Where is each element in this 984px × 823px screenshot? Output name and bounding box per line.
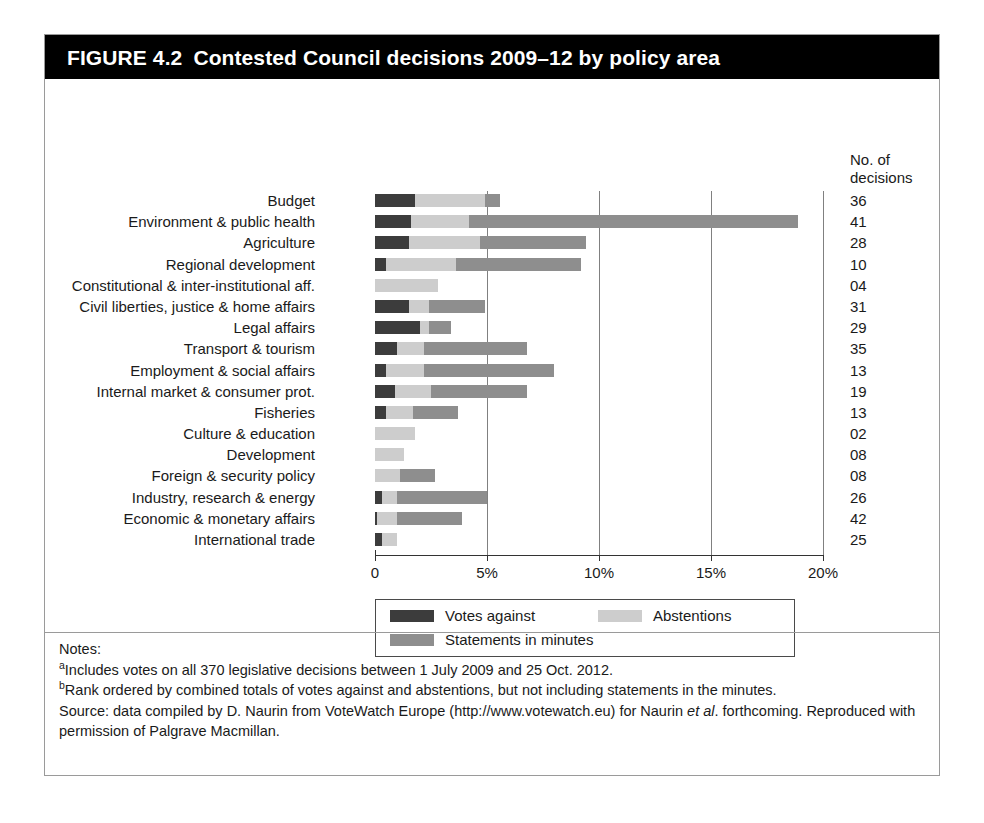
x-axis-tick-label: 20% xyxy=(808,564,838,581)
category-label: Constitutional & inter-institutional aff… xyxy=(0,278,315,294)
bar-segment-against xyxy=(375,342,397,355)
bar-segment-abstent xyxy=(409,300,429,313)
chart-row: International trade25 xyxy=(45,530,939,551)
stacked-bar xyxy=(375,469,823,482)
category-label: Economic & monetary affairs xyxy=(0,511,315,527)
figure-title-text: Contested Council decisions 2009–12 by p… xyxy=(193,46,720,69)
stacked-bar xyxy=(375,512,823,525)
bar-segment-against xyxy=(375,406,386,419)
bar-segment-statement xyxy=(469,215,798,228)
figure-container: FIGURE 4.2Contested Council decisions 20… xyxy=(44,34,940,776)
x-axis-tick-label: 0 xyxy=(371,564,379,581)
bar-segment-statement xyxy=(397,491,487,504)
bar-segment-against xyxy=(375,258,386,271)
category-label: Development xyxy=(0,447,315,463)
bar-segment-abstent xyxy=(397,342,424,355)
bar-segment-statement xyxy=(480,236,585,249)
bar-segment-abstent xyxy=(382,491,398,504)
bar-segment-abstent xyxy=(375,469,400,482)
chart-row: Transport & tourism35 xyxy=(45,339,939,360)
decisions-count: 10 xyxy=(850,257,867,273)
category-label: Internal market & consumer prot. xyxy=(0,384,315,400)
bar-segment-abstent xyxy=(386,258,455,271)
bar-segment-abstent xyxy=(377,512,397,525)
bar-segment-statement xyxy=(429,321,451,334)
bar-segment-statement xyxy=(485,194,501,207)
decisions-count: 41 xyxy=(850,214,867,230)
bar-segment-against xyxy=(375,236,409,249)
bar-segment-statement xyxy=(413,406,458,419)
stacked-bar xyxy=(375,258,823,271)
decisions-count: 36 xyxy=(850,193,867,209)
decisions-count: 29 xyxy=(850,320,867,336)
bar-segment-against xyxy=(375,491,382,504)
decisions-count: 08 xyxy=(850,447,867,463)
x-axis-tick xyxy=(375,550,376,561)
bar-segment-statement xyxy=(429,300,485,313)
chart-row: Employment & social affairs13 xyxy=(45,361,939,382)
bar-segment-against xyxy=(375,364,386,377)
bar-segment-against xyxy=(375,215,411,228)
decisions-header-line2: decisions xyxy=(850,169,913,187)
category-label: Regional development xyxy=(0,257,315,273)
category-label: Legal affairs xyxy=(0,320,315,336)
bar-segment-statement xyxy=(400,469,436,482)
legend-swatch-icon xyxy=(598,610,642,622)
category-label: Industry, research & energy xyxy=(0,490,315,506)
stacked-bar xyxy=(375,385,823,398)
chart-row: Culture & education02 xyxy=(45,424,939,445)
decisions-column-header: No. of decisions xyxy=(850,151,913,187)
bar-segment-statement xyxy=(431,385,527,398)
category-label: Fisheries xyxy=(0,405,315,421)
bar-segment-abstent xyxy=(409,236,481,249)
decisions-count: 31 xyxy=(850,299,867,315)
chart-row: Internal market & consumer prot.19 xyxy=(45,382,939,403)
decisions-count: 25 xyxy=(850,532,867,548)
x-axis-line: 05%10%15%20% xyxy=(375,555,823,556)
category-label: Foreign & security policy xyxy=(0,468,315,484)
category-label: Budget xyxy=(0,193,315,209)
x-axis-tick-label: 5% xyxy=(476,564,498,581)
stacked-bar xyxy=(375,533,823,546)
notes-divider xyxy=(45,632,939,633)
figure-title-bar: FIGURE 4.2Contested Council decisions 20… xyxy=(45,35,939,79)
chart-row: Economic & monetary affairs42 xyxy=(45,509,939,530)
chart-row: Foreign & security policy08 xyxy=(45,466,939,487)
legend-swatch-icon xyxy=(390,610,434,622)
figure-title: FIGURE 4.2Contested Council decisions 20… xyxy=(67,46,720,70)
stacked-bar xyxy=(375,279,823,292)
stacked-bar xyxy=(375,427,823,440)
chart-row: Agriculture28 xyxy=(45,233,939,254)
category-label: International trade xyxy=(0,532,315,548)
source-prefix: Source: data compiled by D. Naurin from … xyxy=(59,703,687,719)
chart-row: Industry, research & energy26 xyxy=(45,488,939,509)
legend-item: Votes against xyxy=(390,607,535,624)
stacked-bar xyxy=(375,215,823,228)
category-label: Employment & social affairs xyxy=(0,363,315,379)
bar-segment-abstent xyxy=(411,215,469,228)
note-a: aIncludes votes on all 370 legislative d… xyxy=(59,660,925,681)
x-axis-tick xyxy=(711,555,712,561)
bar-segment-abstent xyxy=(415,194,484,207)
bar-segment-abstent xyxy=(375,279,438,292)
bar-segment-abstent xyxy=(375,448,404,461)
stacked-bar xyxy=(375,236,823,249)
chart-plot-area: No. of decisions Budget36Environment & p… xyxy=(45,79,939,632)
decisions-count: 13 xyxy=(850,405,867,421)
chart-row: Regional development10 xyxy=(45,255,939,276)
category-label: Civil liberties, justice & home affairs xyxy=(0,299,315,315)
source-note: Source: data compiled by D. Naurin from … xyxy=(59,701,925,742)
figure-notes: Notes: aIncludes votes on all 370 legisl… xyxy=(59,639,925,742)
bar-segment-abstent xyxy=(375,427,415,440)
notes-heading: Notes: xyxy=(59,639,925,660)
decisions-count: 35 xyxy=(850,341,867,357)
chart-row: Development08 xyxy=(45,445,939,466)
bar-segment-statement xyxy=(424,364,554,377)
bar-segment-against xyxy=(375,194,415,207)
stacked-bar xyxy=(375,491,823,504)
source-italic: et al xyxy=(687,703,714,719)
legend-item: Abstentions xyxy=(598,607,731,624)
decisions-count: 02 xyxy=(850,426,867,442)
bar-segment-abstent xyxy=(386,364,424,377)
stacked-bar xyxy=(375,194,823,207)
